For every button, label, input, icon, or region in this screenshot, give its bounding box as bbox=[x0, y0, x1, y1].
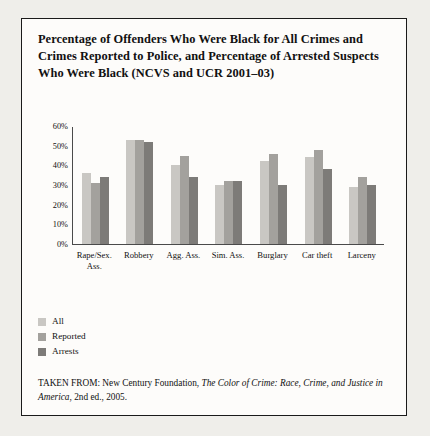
source-prefix: TAKEN FROM: New Century Foundation, bbox=[38, 378, 202, 388]
x-category-label-line: Agg. Ass. bbox=[167, 250, 201, 261]
source-note: TAKEN FROM: New Century Foundation, The … bbox=[38, 377, 390, 405]
legend-label: Reported bbox=[52, 332, 86, 341]
bar-all bbox=[171, 165, 180, 244]
y-tick-label: 60% bbox=[53, 123, 68, 131]
bar-group bbox=[296, 127, 341, 244]
bar-reported bbox=[314, 150, 323, 244]
x-category-label-line: Robbery bbox=[124, 250, 154, 261]
y-tick-label: 10% bbox=[53, 221, 68, 229]
bar-all bbox=[82, 173, 91, 244]
y-axis-tick-labels: 60%50%40%30%20%10%0% bbox=[38, 124, 68, 248]
legend-item: Arrests bbox=[38, 345, 238, 359]
bar-reported bbox=[358, 177, 367, 244]
bar-group bbox=[340, 127, 385, 244]
x-category-label-line: Ass. bbox=[77, 261, 112, 272]
bar-all bbox=[215, 185, 224, 244]
figure-title: Percentage of Offenders Who Were Black f… bbox=[38, 31, 386, 82]
x-category-label: Sim. Ass. bbox=[212, 250, 245, 261]
chart-legend: AllReportedArrests bbox=[38, 315, 238, 360]
x-category-label: Burglary bbox=[257, 250, 287, 261]
bar-all bbox=[126, 140, 135, 244]
bar-group bbox=[251, 127, 296, 244]
bar-chart: 60%50%40%30%20%10%0% Rape/Sex.Ass.Robber… bbox=[38, 124, 390, 294]
y-tick-label: 50% bbox=[53, 143, 68, 151]
y-tick-label: 0% bbox=[57, 241, 68, 249]
bar-reported bbox=[224, 181, 233, 244]
bar-all bbox=[305, 157, 314, 244]
figure-panel: Percentage of Offenders Who Were Black f… bbox=[21, 18, 407, 416]
bar-arrests bbox=[278, 185, 287, 244]
legend-item: Reported bbox=[38, 330, 238, 344]
x-category-label: Larceny bbox=[348, 250, 376, 261]
bar-reported bbox=[269, 154, 278, 244]
x-axis-category-labels: Rape/Sex.Ass.RobberyAgg. Ass.Sim. Ass.Bu… bbox=[72, 250, 384, 290]
bar-reported bbox=[135, 140, 144, 244]
bar-group bbox=[118, 127, 163, 244]
legend-label: Arrests bbox=[52, 347, 79, 356]
bar-group bbox=[162, 127, 207, 244]
x-category-label-line: Car theft bbox=[302, 250, 332, 261]
plot-area bbox=[72, 127, 384, 245]
bar-arrests bbox=[189, 177, 198, 244]
legend-item: All bbox=[38, 315, 238, 329]
x-category-label: Car theft bbox=[302, 250, 332, 261]
bar-arrests bbox=[144, 142, 153, 244]
x-category-label-line: Rape/Sex. bbox=[77, 250, 112, 261]
x-category-label: Rape/Sex.Ass. bbox=[77, 250, 112, 271]
bar-all bbox=[349, 187, 358, 244]
source-suffix: , 2nd ed., 2005. bbox=[70, 392, 128, 402]
bar-arrests bbox=[233, 181, 242, 244]
x-category-label: Agg. Ass. bbox=[167, 250, 201, 261]
bar-arrests bbox=[100, 177, 109, 244]
bar-arrests bbox=[367, 185, 376, 244]
x-category-label-line: Sim. Ass. bbox=[212, 250, 245, 261]
y-tick-label: 40% bbox=[53, 162, 68, 170]
legend-swatch bbox=[38, 348, 46, 356]
y-tick-label: 20% bbox=[53, 202, 68, 210]
bar-reported bbox=[180, 156, 189, 245]
x-category-label: Robbery bbox=[124, 250, 154, 261]
bar-group bbox=[207, 127, 252, 244]
x-category-label-line: Burglary bbox=[257, 250, 287, 261]
y-tick-label: 30% bbox=[53, 182, 68, 190]
legend-label: All bbox=[52, 317, 64, 326]
bar-group bbox=[73, 127, 118, 244]
x-category-label-line: Larceny bbox=[348, 250, 376, 261]
bar-arrests bbox=[323, 169, 332, 244]
legend-swatch bbox=[38, 318, 46, 326]
bar-all bbox=[260, 161, 269, 244]
legend-swatch bbox=[38, 333, 46, 341]
bar-reported bbox=[91, 183, 100, 244]
